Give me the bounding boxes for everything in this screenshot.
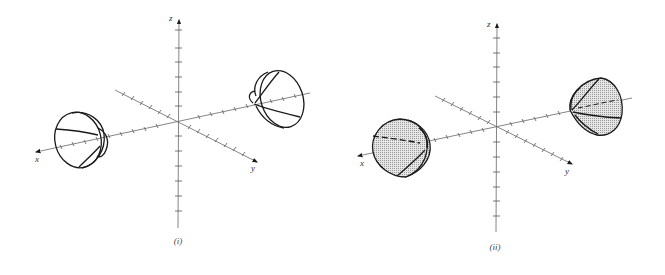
right-paraboloid-nappe xyxy=(249,65,311,133)
panel-i-caption: (i) xyxy=(174,236,183,246)
y-axis xyxy=(115,90,257,162)
left-paraboloid-nappe xyxy=(373,119,431,177)
y-axis-label: y xyxy=(565,166,569,176)
z-axis-label: z xyxy=(169,13,173,23)
right-paraboloid-nappe xyxy=(570,78,622,135)
panel-ii-caption: (ii) xyxy=(490,242,501,252)
panel-i xyxy=(36,20,311,228)
x-axis-label: x xyxy=(360,158,364,168)
hyperboloid-two-sheets-figure: z x y z x y (i) (ii) xyxy=(0,0,665,275)
y-axis xyxy=(435,96,572,164)
panel-ii xyxy=(358,24,632,232)
x-axis-label: x xyxy=(35,154,39,164)
y-axis-label: y xyxy=(251,163,255,173)
z-axis-label: z xyxy=(487,19,491,29)
figure-canvas xyxy=(0,0,665,275)
z-axis xyxy=(175,20,182,228)
left-paraboloid-nappe xyxy=(49,107,108,172)
